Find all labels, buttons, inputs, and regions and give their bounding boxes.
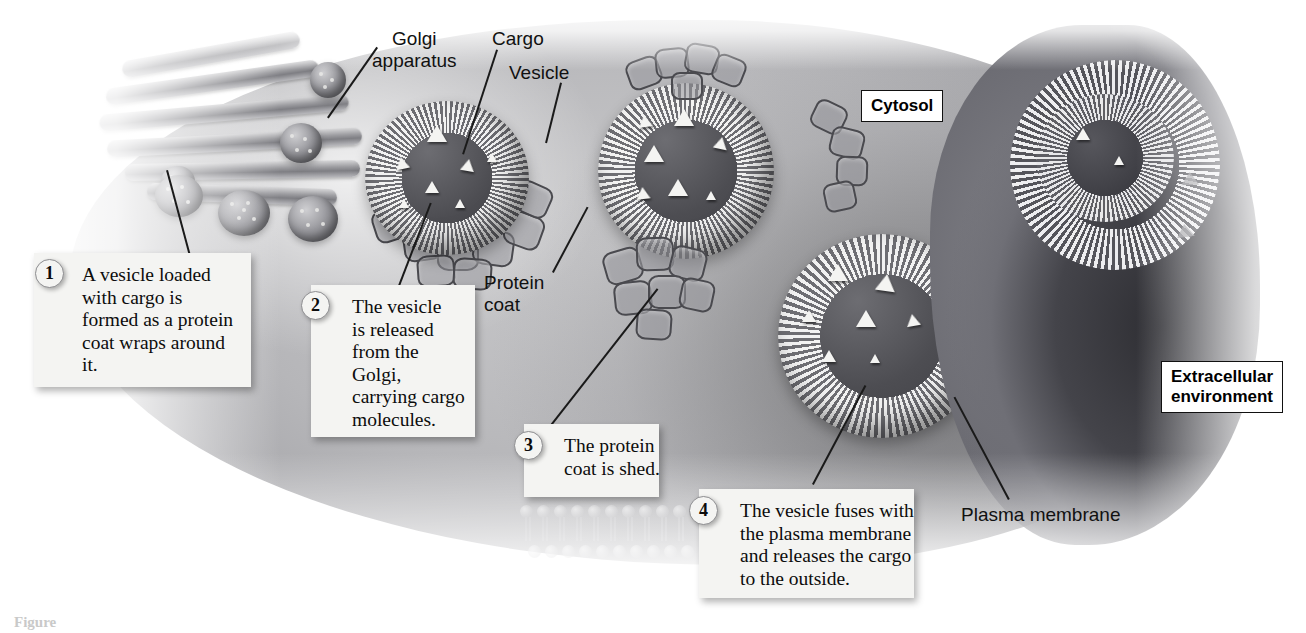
step-2-text: The vesicle is released from the Golgi, … [352, 296, 474, 431]
transport-vesicle-small [288, 196, 338, 242]
label-plasma-membrane: Plasma membrane [961, 504, 1120, 526]
step-3-text: The protein coat is shed. [564, 435, 662, 480]
label-cargo: Cargo [492, 28, 544, 50]
figure-caption: Figure [14, 614, 56, 631]
shed-protein-coat-fragment [600, 235, 730, 345]
step-4-number: 4 [689, 496, 718, 525]
step-1-text: A vesicle loaded with cargo is formed as… [82, 264, 248, 377]
step-callout-3: The protein coat is shed. [524, 424, 659, 497]
step-2-number: 2 [301, 291, 330, 320]
step-callout-4: The vesicle fuses with the plasma membra… [699, 489, 914, 598]
label-golgi-apparatus: Golgi apparatus [372, 28, 457, 72]
step-callout-1: A vesicle loaded with cargo is formed as… [34, 253, 251, 387]
figure-canvas: Golgi apparatus Cargo Vesicle Protein co… [0, 0, 1306, 633]
step-callout-2: The vesicle is released from the Golgi, … [311, 285, 475, 437]
step-4-text: The vesicle fuses with the plasma membra… [740, 500, 918, 590]
region-label-cytosol: Cytosol [861, 90, 943, 122]
region-label-extracellular-environment: Extracellular environment [1161, 361, 1283, 413]
label-vesicle: Vesicle [509, 62, 569, 84]
step-1-number: 1 [35, 259, 64, 288]
label-protein-coat: Protein coat [484, 272, 544, 316]
coated-vesicle [355, 95, 555, 285]
step-3-number: 3 [514, 431, 543, 460]
